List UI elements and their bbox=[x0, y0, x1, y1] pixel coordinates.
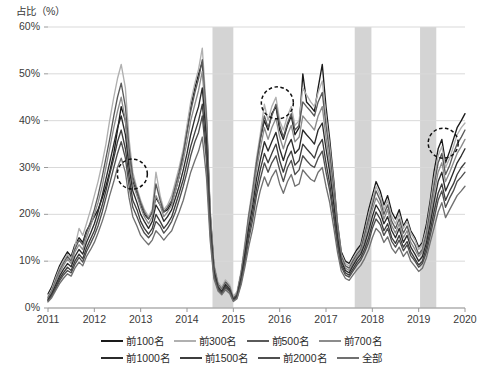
legend-item-5[interactable]: 前1000名 bbox=[101, 350, 169, 365]
legend-swatch-5 bbox=[101, 357, 123, 359]
y-tick-label-40: 40% bbox=[6, 114, 40, 126]
x-tick-label-2019: 2019 bbox=[399, 313, 439, 325]
y-tick-label-60: 60% bbox=[6, 20, 40, 32]
x-tick-label-2013: 2013 bbox=[121, 313, 161, 325]
y-tick-label-10: 10% bbox=[6, 254, 40, 266]
legend-swatch-7 bbox=[258, 357, 280, 359]
legend-label-3: 前500名 bbox=[272, 333, 310, 348]
legend-label-1: 前100名 bbox=[126, 333, 164, 348]
legend-label-5: 前1000名 bbox=[126, 350, 169, 365]
chart-container: 占比（%） 0%10%20%30%40%50%60% 2011201220132… bbox=[0, 0, 483, 380]
y-tick-label-0: 0% bbox=[6, 301, 40, 313]
legend-swatch-6 bbox=[180, 357, 202, 359]
x-tick-label-2011: 2011 bbox=[28, 313, 68, 325]
legend-row-bottom: 前1000名前1500名前2000名全部 bbox=[0, 349, 483, 366]
legend-item-8[interactable]: 全部 bbox=[337, 350, 382, 365]
legend-item-6[interactable]: 前1500名 bbox=[180, 350, 248, 365]
legend-label-6: 前1500名 bbox=[205, 350, 248, 365]
legend-swatch-1 bbox=[101, 340, 123, 342]
x-tick-label-2012: 2012 bbox=[74, 313, 114, 325]
legend-item-3[interactable]: 前500名 bbox=[247, 333, 310, 348]
x-tick-label-2016: 2016 bbox=[260, 313, 300, 325]
x-tick-label-2020: 2020 bbox=[445, 313, 483, 325]
x-tick-label-2014: 2014 bbox=[167, 313, 207, 325]
legend-label-7: 前2000名 bbox=[283, 350, 326, 365]
x-tick-label-2015: 2015 bbox=[213, 313, 253, 325]
legend-item-2[interactable]: 前300名 bbox=[174, 333, 237, 348]
x-tick-label-2018: 2018 bbox=[352, 313, 392, 325]
legend-label-2: 前300名 bbox=[199, 333, 237, 348]
legend-item-4[interactable]: 前700名 bbox=[319, 333, 382, 348]
legend-swatch-3 bbox=[247, 340, 269, 342]
legend-swatch-8 bbox=[337, 357, 359, 359]
legend-row-top: 前100名前300名前500名前700名 bbox=[0, 332, 483, 349]
legend-item-1[interactable]: 前100名 bbox=[101, 333, 164, 348]
series-lines-group bbox=[48, 48, 465, 302]
chart-legend: 前100名前300名前500名前700名 前1000名前1500名前2000名全… bbox=[0, 332, 483, 366]
legend-swatch-4 bbox=[319, 340, 341, 342]
annotations-group bbox=[117, 87, 458, 189]
x-tick-label-2017: 2017 bbox=[306, 313, 346, 325]
legend-label-4: 前700名 bbox=[344, 333, 382, 348]
legend-item-7[interactable]: 前2000名 bbox=[258, 350, 326, 365]
y-tick-label-50: 50% bbox=[6, 67, 40, 79]
y-tick-label-20: 20% bbox=[6, 207, 40, 219]
y-tick-label-30: 30% bbox=[6, 161, 40, 173]
legend-label-8: 全部 bbox=[362, 350, 382, 365]
legend-swatch-2 bbox=[174, 340, 196, 342]
